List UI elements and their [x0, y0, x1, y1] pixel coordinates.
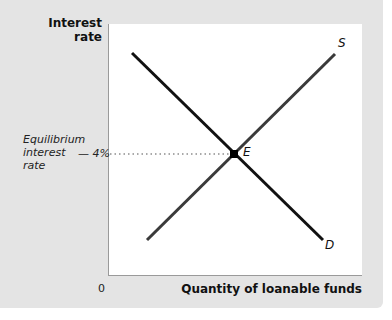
y-tick-4pct: — 4% [78, 147, 110, 160]
x-axis-label: Quantity of loanable funds [181, 282, 362, 296]
equilibrium-annotation: Equilibrium interest rate [23, 133, 85, 172]
y-axis-label: Interest rate [48, 16, 102, 44]
equilibrium-label: E [243, 145, 251, 159]
eq-line1: Equilibrium [23, 133, 85, 146]
supply-label: S [338, 36, 346, 50]
origin-label: 0 [98, 282, 105, 295]
demand-label: D [325, 238, 334, 252]
y-axis-label-line2: rate [48, 30, 102, 44]
y-axis-label-line1: Interest [48, 16, 102, 30]
demand-curve [132, 53, 323, 240]
supply-curve [147, 54, 335, 240]
eq-line2: interest [23, 146, 85, 159]
eq-line3: rate [23, 159, 85, 172]
equilibrium-point [230, 150, 238, 158]
